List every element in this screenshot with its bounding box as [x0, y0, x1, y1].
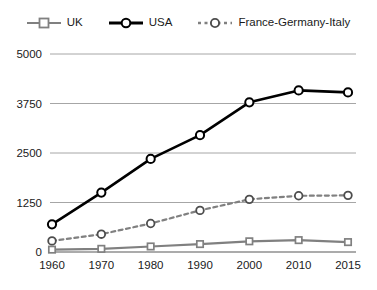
series-marker-france-germany-italy-2000[interactable] — [246, 196, 254, 204]
series-marker-uk-2015[interactable] — [345, 239, 351, 245]
series-marker-uk-2000[interactable] — [246, 238, 252, 244]
series-marker-france-germany-italy-1980[interactable] — [147, 220, 155, 228]
y-axis-label-5000: 5000 — [16, 48, 42, 60]
series-marker-uk-1960[interactable] — [49, 246, 55, 252]
x-axis-label-2015: 2015 — [335, 259, 361, 271]
y-axis-label-1250: 1250 — [16, 197, 42, 209]
series-marker-uk-2010[interactable] — [295, 237, 301, 243]
y-axis-label-2500: 2500 — [16, 147, 42, 159]
x-axis-label-1970: 1970 — [89, 259, 115, 271]
series-marker-usa-2015[interactable] — [344, 88, 352, 96]
x-axis-label-2010: 2010 — [286, 259, 312, 271]
y-axis-label-0: 0 — [36, 246, 42, 258]
line-chart: UK USA France-Germany-Italy 012502500375… — [0, 0, 377, 290]
series-marker-france-germany-italy-1970[interactable] — [98, 230, 106, 238]
series-marker-uk-1980[interactable] — [147, 243, 153, 249]
y-axis-label-3750: 3750 — [16, 98, 42, 110]
series-marker-france-germany-italy-2010[interactable] — [295, 192, 303, 200]
series-marker-usa-2010[interactable] — [295, 86, 303, 94]
series-marker-usa-1980[interactable] — [147, 155, 155, 163]
series-marker-france-germany-italy-2015[interactable] — [344, 192, 352, 200]
plot-area: 0125025003750500019601970198019902000201… — [0, 0, 377, 290]
series-marker-usa-2000[interactable] — [245, 98, 253, 106]
series-marker-usa-1970[interactable] — [97, 189, 105, 197]
x-axis-label-1960: 1960 — [39, 259, 65, 271]
series-marker-usa-1990[interactable] — [196, 131, 204, 139]
series-marker-uk-1970[interactable] — [98, 246, 104, 252]
series-marker-usa-1960[interactable] — [48, 220, 56, 228]
series-marker-france-germany-italy-1960[interactable] — [48, 237, 56, 245]
x-axis-label-2000: 2000 — [237, 259, 263, 271]
series-line-usa — [52, 90, 348, 224]
x-axis-label-1990: 1990 — [187, 259, 213, 271]
series-marker-uk-1990[interactable] — [197, 241, 203, 247]
x-axis-label-1980: 1980 — [138, 259, 164, 271]
series-marker-france-germany-italy-1990[interactable] — [196, 207, 204, 215]
